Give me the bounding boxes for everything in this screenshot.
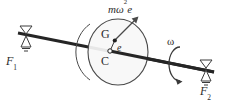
bearing-right-upper-triangle: [200, 60, 212, 68]
center-of-gravity-label: G: [101, 28, 110, 40]
centrifugal-force-base: mω: [108, 3, 124, 15]
eccentricity-label: e: [117, 43, 121, 53]
geometric-center-label: C: [101, 55, 109, 67]
force-label-left: F1: [6, 55, 17, 70]
bearing-left-lower-triangle: [21, 36, 31, 47]
force-right-subscript: 2: [207, 93, 211, 102]
figure-canvas: [0, 0, 230, 106]
geometric-center-point: [108, 49, 112, 53]
force-left-subscript: 1: [13, 63, 17, 72]
centrifugal-force-exponent: 2: [124, 0, 127, 5]
centrifugal-force-label: mω2e: [108, 3, 132, 15]
rotation-arrowhead: [176, 79, 183, 85]
angular-velocity-label: ω: [167, 36, 174, 47]
centrifugal-force-eccentricity: e: [127, 3, 132, 15]
bearing-support-left: [20, 26, 32, 51]
rotor-dynamics-figure: F1 F2 mω2e G C e ω: [0, 0, 230, 106]
force-label-right: F2: [200, 85, 211, 100]
